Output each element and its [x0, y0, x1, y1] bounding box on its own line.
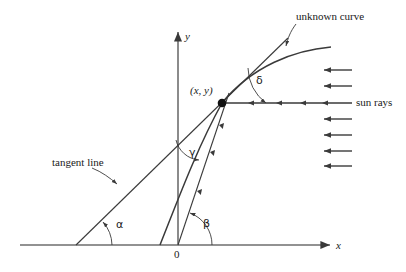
main-ray-arrowhead-3 [300, 100, 306, 105]
axis-group [20, 32, 330, 245]
origin-ray-arrowhead-2 [210, 150, 215, 156]
origin-ray-arrowhead-1 [197, 189, 202, 195]
figure-container: y x 0 (x, y) α β γ δ unknown curve sun r… [0, 0, 406, 272]
unknown-curve-label: unknown curve [296, 11, 364, 22]
sun-rays-label: sun rays [356, 97, 392, 108]
main-ray-arrowhead-1 [248, 100, 254, 105]
origin-label: 0 [174, 249, 180, 260]
sun-rays-group [324, 70, 352, 166]
tangent-line-label: tangent line [52, 157, 104, 168]
main-sun-ray-group [222, 100, 352, 105]
tangent-line-path [76, 38, 288, 245]
origin-ray-arrowhead-3 [219, 123, 224, 129]
x-axis-label: x [336, 240, 341, 251]
tangent-line-leader [92, 168, 117, 184]
unknown-curve-leader [286, 24, 296, 46]
geometry-diagram [0, 0, 406, 272]
unknown-curve-path [160, 47, 331, 245]
alpha-arc [103, 222, 112, 245]
angle-alpha-label: α [116, 219, 123, 230]
point-marker [218, 99, 227, 108]
angle-beta-label: β [203, 218, 210, 229]
main-ray-arrowhead-4 [322, 100, 328, 105]
angle-gamma-label: γ [189, 147, 196, 158]
point-label: (x, y) [190, 85, 213, 96]
main-ray-arrowhead-2 [276, 100, 282, 105]
angle-delta-label: δ [256, 75, 263, 86]
y-axis-label: y [185, 31, 190, 42]
angle-arcs [103, 68, 266, 245]
